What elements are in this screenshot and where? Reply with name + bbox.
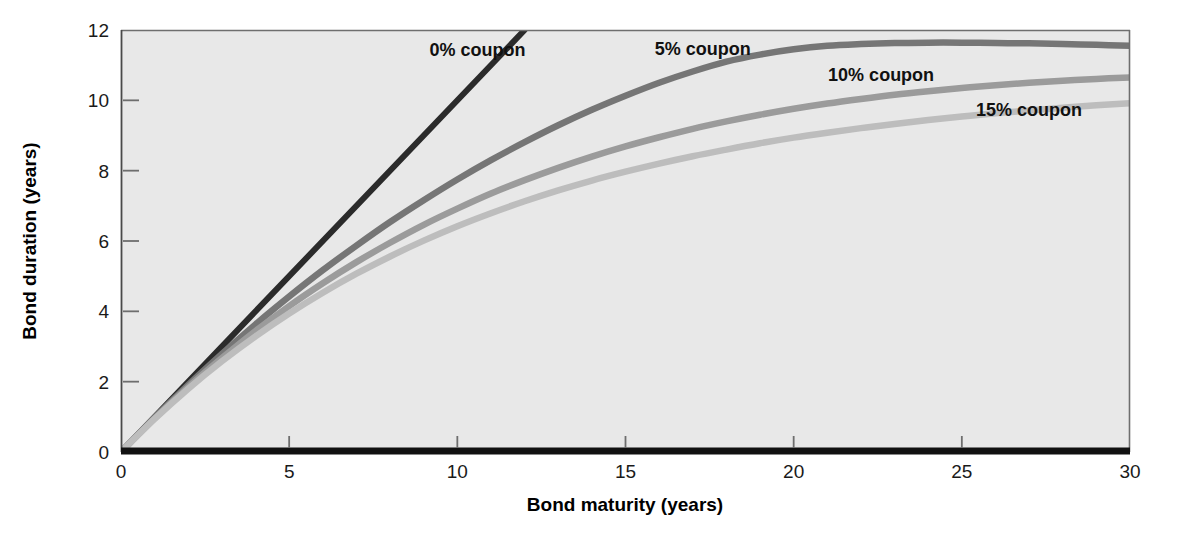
y-tick-label: 10 bbox=[88, 90, 109, 111]
y-tick-label: 0 bbox=[98, 442, 109, 463]
x-tick-label: 30 bbox=[1119, 461, 1140, 482]
bond-duration-chart: 051015202530 024681012 Bond maturity (ye… bbox=[0, 0, 1182, 548]
series-label-0-coupon: 0% coupon bbox=[430, 40, 526, 60]
y-tick-label: 8 bbox=[98, 161, 109, 182]
y-tick-label: 6 bbox=[98, 231, 109, 252]
series-label-15-coupon: 15% coupon bbox=[976, 100, 1082, 120]
x-tick-label: 0 bbox=[116, 461, 127, 482]
y-axis-title: Bond duration (years) bbox=[19, 142, 40, 339]
chart-canvas: 051015202530 024681012 Bond maturity (ye… bbox=[0, 0, 1182, 548]
x-tick-label: 10 bbox=[447, 461, 468, 482]
series-label-5-coupon: 5% coupon bbox=[655, 39, 751, 59]
x-tick-label: 5 bbox=[284, 461, 295, 482]
series-label-10-coupon: 10% coupon bbox=[828, 65, 934, 85]
x-axis-title: Bond maturity (years) bbox=[527, 494, 723, 515]
x-tick-label: 20 bbox=[783, 461, 804, 482]
y-tick-label: 4 bbox=[98, 301, 109, 322]
y-tick-label: 12 bbox=[88, 20, 109, 41]
x-tick-label: 25 bbox=[951, 461, 972, 482]
x-tick-label: 15 bbox=[615, 461, 636, 482]
y-tick-label: 2 bbox=[98, 372, 109, 393]
